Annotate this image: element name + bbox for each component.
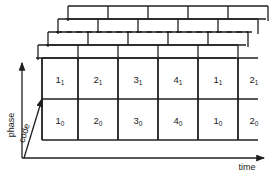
cell-r1-c5: 20 — [250, 115, 259, 127]
code-phase-time-diagram: 11 21 31 41 11 21 10 20 30 40 10 20 phas… — [0, 0, 277, 172]
time-axis: time — [22, 158, 264, 172]
cell-r1-c2: 30 — [134, 115, 143, 127]
cell-r1-c0: 10 — [56, 115, 65, 127]
cell-r0-c2: 31 — [134, 74, 143, 86]
code-axis: code — [16, 99, 42, 158]
cell-r0-c0: 11 — [56, 74, 65, 86]
phase-axis-label: phase — [6, 113, 16, 138]
cell-r0-c4: 11 — [214, 74, 223, 86]
cell-r1-c1: 20 — [94, 115, 103, 127]
time-axis-label: time — [238, 162, 255, 172]
cell-r1-c4: 10 — [214, 115, 223, 127]
cell-r0-c1: 21 — [94, 74, 103, 86]
main-grid — [42, 58, 258, 140]
phase-axis: phase — [6, 63, 22, 158]
cell-r0-c3: 41 — [174, 74, 183, 86]
cell-r1-c3: 40 — [174, 115, 183, 127]
cell-r0-c5: 21 — [250, 74, 259, 86]
diagram-canvas: 11 21 31 41 11 21 10 20 30 40 10 20 phas… — [0, 0, 277, 172]
